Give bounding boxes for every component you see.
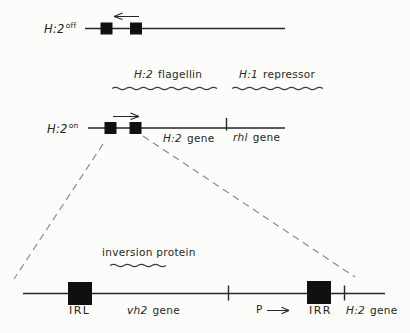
- flagellin-gene-symbol: H:2: [134, 68, 153, 80]
- flagellin-product-label: H:2flagellin: [134, 68, 202, 81]
- flagellin-mrna-squiggle: [112, 87, 217, 89]
- state-on-superscript: on: [69, 121, 79, 130]
- left-arrow-icon: [114, 13, 139, 20]
- state-label-on: H:2on: [47, 119, 79, 136]
- repressor-product-label: H:1repressor: [239, 68, 315, 81]
- inversion-protein-label: inversion protein: [102, 246, 196, 259]
- promoter-arrow-icon: [267, 307, 289, 313]
- inversion-protein-squiggle: [110, 264, 166, 266]
- irl-box: [68, 282, 92, 305]
- vh2-gene-symbol: vh2: [127, 304, 147, 316]
- state-off-superscript: off: [66, 21, 76, 30]
- inverted-repeat-box-left-off: [101, 23, 113, 35]
- repressor-word: repressor: [263, 68, 315, 80]
- rhl-gene-label: rhlgene: [233, 131, 280, 144]
- irl-label: IRL: [69, 304, 90, 317]
- promoter-label: P: [256, 303, 263, 316]
- inverted-repeat-box-right-off: [130, 23, 142, 35]
- state-label-off: H:2off: [44, 19, 76, 36]
- h2-gene-word-bottom: gene: [370, 304, 397, 316]
- vh2-gene-word: gene: [152, 304, 179, 316]
- inverted-repeat-box-right-on: [130, 122, 142, 134]
- state-off-base: H:2: [44, 22, 65, 36]
- vh2-gene-label: vh2gene: [127, 304, 180, 317]
- repressor-mrna-squiggle: [232, 87, 323, 89]
- h2-gene-symbol-bottom: H:2: [346, 304, 365, 316]
- state-on-base: H:2: [47, 122, 68, 136]
- diagram-artwork: [0, 0, 410, 333]
- right-arrow-icon: [113, 113, 139, 120]
- h2-gene-label-mid: H:2gene: [163, 132, 214, 145]
- rhl-gene-symbol: rhl: [233, 131, 248, 143]
- phase-variation-gene-inversion-diagram: H:2off H:2flagellin H:1repressor H:2on H…: [0, 0, 410, 333]
- h2-gene-label-bottom: H:2gene: [346, 304, 397, 317]
- flagellin-word: flagellin: [158, 68, 202, 80]
- inverted-repeat-box-left-on: [105, 122, 117, 134]
- h2-gene-symbol-mid: H:2: [163, 132, 182, 144]
- rhl-gene-word: gene: [253, 131, 280, 143]
- zoom-dash-line-left: [14, 144, 103, 279]
- repressor-gene-symbol: H:1: [239, 68, 258, 80]
- irr-label: IRR: [309, 304, 332, 317]
- h2-gene-word-mid: gene: [187, 132, 214, 144]
- irr-box: [307, 281, 331, 304]
